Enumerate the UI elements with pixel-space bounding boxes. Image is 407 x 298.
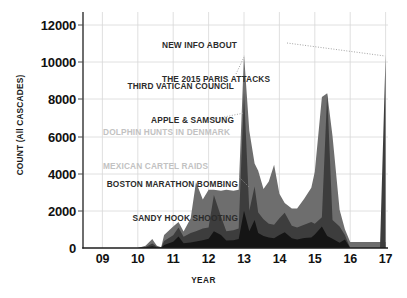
annotation-dolphin-line1: DOLPHIN HUNTS IN DENMARK bbox=[103, 127, 230, 138]
y-tick-0: 0 bbox=[14, 242, 76, 255]
x-tick-10: 10 bbox=[118, 252, 158, 266]
x-tick-16: 16 bbox=[330, 252, 370, 266]
annotation-vatican-line1: THIRD VATICAN COUNCIL bbox=[106, 81, 234, 92]
x-tick-13: 13 bbox=[224, 252, 264, 266]
annotation-boston-line1: BOSTON MARATHON BOMBING bbox=[96, 179, 238, 190]
annotation-boston-sandyhook: BOSTON MARATHON BOMBING SANDY HOOK SHOOT… bbox=[96, 156, 238, 247]
x-tick-09: 09 bbox=[82, 252, 122, 266]
y-tick-12000: 12000 bbox=[14, 19, 76, 32]
x-tick-12: 12 bbox=[189, 252, 229, 266]
annotation-boston-line2: SANDY HOOK SHOOTING bbox=[96, 213, 238, 224]
cascade-count-area-chart: 12000 10000 8000 6000 4000 2000 0 COUNT … bbox=[0, 0, 407, 298]
y-axis-title: COUNT (All CASCADES) bbox=[15, 35, 25, 215]
leader-line-paris bbox=[287, 43, 385, 56]
x-tick-15: 15 bbox=[295, 252, 335, 266]
x-tick-17: 17 bbox=[366, 252, 406, 266]
x-tick-14: 14 bbox=[259, 252, 299, 266]
x-axis-title: YEAR bbox=[0, 276, 407, 285]
x-tick-11: 11 bbox=[153, 252, 193, 266]
annotation-paris-line1: NEW INFO ABOUT bbox=[162, 40, 270, 51]
